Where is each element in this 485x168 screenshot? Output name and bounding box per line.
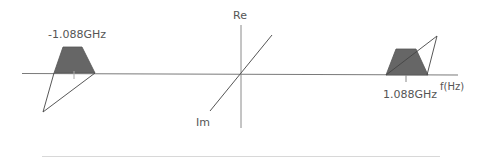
positive-band-label: 1.088GHz	[383, 88, 437, 101]
negative-frequency-band	[43, 47, 95, 112]
real-axis-label: Re	[233, 9, 247, 22]
imaginary-axis-label: Im	[196, 116, 210, 129]
spectrum-diagram: -1.088GHz 1.088GHz Re Im f(Hz)	[0, 0, 485, 168]
negative-band-label: -1.088GHz	[48, 28, 106, 41]
frequency-axis-label: f(Hz)	[440, 81, 464, 92]
diagram-canvas: -1.088GHz 1.088GHz Re Im f(Hz)	[0, 0, 485, 168]
negative-phasor-triangle	[43, 73, 95, 112]
